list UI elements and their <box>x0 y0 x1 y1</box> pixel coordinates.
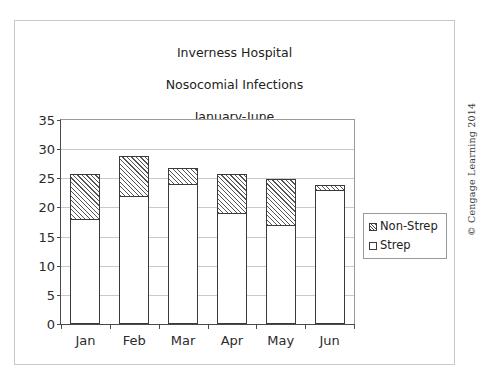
y-axis-tick-mark <box>57 237 61 238</box>
bar-segment-non-strep[interactable] <box>217 174 247 215</box>
bar-segment-strep[interactable] <box>217 213 247 324</box>
y-axis-tick-mark <box>57 149 61 150</box>
hatched-swatch-icon <box>369 223 377 231</box>
gridline <box>61 295 354 296</box>
y-axis-tick-label: 30 <box>38 142 55 157</box>
y-axis-tick-label: 25 <box>38 171 55 186</box>
bar-stack[interactable] <box>315 185 345 324</box>
plot-wrapper: 05101520253035JanFebMarAprMayJun Non-Str… <box>15 21 456 366</box>
chart-legend: Non-Strep Strep <box>363 213 447 259</box>
y-axis-tick-mark <box>57 266 61 267</box>
y-axis-tick-label: 35 <box>38 113 55 128</box>
x-axis-tick-mark <box>305 324 306 329</box>
legend-label-strep: Strep <box>380 238 411 253</box>
x-axis-tick-mark <box>159 324 160 329</box>
legend-item-strep[interactable]: Strep <box>369 238 442 253</box>
x-axis-tick-mark <box>354 324 355 329</box>
x-axis-tick-mark <box>110 324 111 329</box>
x-axis-tick-label: Feb <box>123 333 146 348</box>
y-axis-tick-label: 15 <box>38 229 55 244</box>
bar-stack[interactable] <box>119 156 149 324</box>
y-axis-tick-label: 10 <box>38 258 55 273</box>
x-axis-tick-mark <box>256 324 257 329</box>
copyright-notice: © Cengage Learning 2014 <box>466 103 477 236</box>
gridline <box>61 207 354 208</box>
y-axis-tick-mark <box>57 295 61 296</box>
white-swatch-icon <box>369 242 377 250</box>
bar-segment-strep[interactable] <box>168 184 198 324</box>
x-axis-tick-label: Apr <box>221 333 244 348</box>
bar-segment-non-strep[interactable] <box>168 168 198 185</box>
bar-segment-strep[interactable] <box>315 190 345 324</box>
legend-item-non-strep[interactable]: Non-Strep <box>369 219 442 234</box>
bar-segment-strep[interactable] <box>119 196 149 324</box>
y-axis-tick-mark <box>57 207 61 208</box>
x-axis-tick-mark <box>61 324 62 329</box>
x-axis-tick-label: Mar <box>171 333 196 348</box>
bar-segment-non-strep[interactable] <box>70 174 100 221</box>
gridline <box>61 237 354 238</box>
bar-stack[interactable] <box>266 179 296 324</box>
gridline <box>61 178 354 179</box>
legend-label-non-strep: Non-Strep <box>380 219 438 234</box>
y-axis-tick-label: 20 <box>38 200 55 215</box>
gridline <box>61 266 354 267</box>
x-axis-tick-label: May <box>267 333 294 348</box>
bar-segment-non-strep[interactable] <box>266 179 296 226</box>
x-axis-tick-label: Jun <box>319 333 339 348</box>
bar-segment-strep[interactable] <box>266 225 296 324</box>
x-axis-tick-mark <box>208 324 209 329</box>
bar-stack[interactable] <box>217 174 247 324</box>
bar-segment-non-strep[interactable] <box>119 156 149 197</box>
bar-segment-strep[interactable] <box>70 219 100 324</box>
x-axis-tick-label: Jan <box>75 333 95 348</box>
y-axis-tick-label: 0 <box>47 317 55 332</box>
y-axis-tick-mark <box>57 178 61 179</box>
gridline <box>61 149 354 150</box>
bar-stack[interactable] <box>70 174 100 324</box>
y-axis-tick-mark <box>57 120 61 121</box>
plot-area: 05101520253035JanFebMarAprMayJun <box>60 119 355 325</box>
bar-stack[interactable] <box>168 168 198 324</box>
y-axis-tick-label: 5 <box>47 287 55 302</box>
figure-frame: Inverness Hospital Nosocomial Infections… <box>14 20 455 365</box>
